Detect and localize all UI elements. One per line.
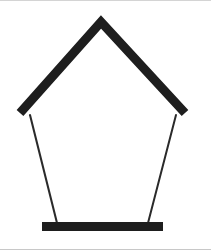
house-swing-drawing xyxy=(0,0,211,252)
left-rope-line xyxy=(30,115,57,223)
right-rope-line xyxy=(148,115,176,223)
roof-shape xyxy=(20,22,185,113)
bottom-border-line xyxy=(0,249,211,250)
base-bar xyxy=(42,222,163,231)
